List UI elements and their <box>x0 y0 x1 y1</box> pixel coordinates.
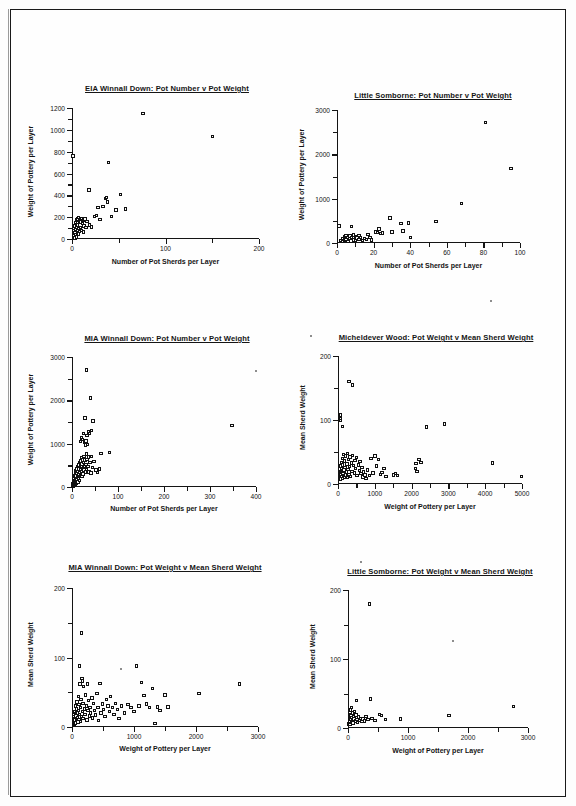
scan-speck <box>255 370 257 372</box>
scan-speck <box>360 561 362 563</box>
scan-speck <box>452 640 454 642</box>
scan-speck <box>120 668 122 670</box>
scan-speck <box>490 300 492 302</box>
figure-page: EIA Winnall Down: Pot Number v Pot Weigh… <box>0 0 576 806</box>
page-border-frame <box>10 9 566 797</box>
scan-speck <box>310 335 312 337</box>
